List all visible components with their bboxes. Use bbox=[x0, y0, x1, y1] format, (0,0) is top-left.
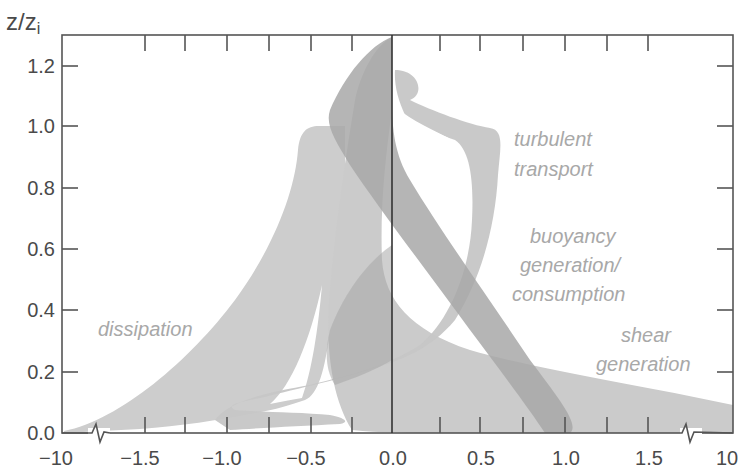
annotation-shear-generation: generation bbox=[596, 353, 691, 375]
annotation-turbulent: turbulent bbox=[514, 128, 593, 150]
y-tick-label: 1.0 bbox=[27, 115, 55, 137]
x-tick-label: −1.5 bbox=[120, 447, 159, 469]
x-tick-label: −10 bbox=[39, 447, 73, 469]
annotation-transport: transport bbox=[514, 158, 594, 180]
annotation-buoyancy: buoyancy bbox=[530, 225, 617, 247]
annotation-generation-slash: generation/ bbox=[520, 254, 623, 276]
y-tick-label: 1.2 bbox=[27, 55, 55, 77]
x-tick-label: −0.5 bbox=[286, 447, 325, 469]
x-tick-label: 0.5 bbox=[467, 447, 495, 469]
x-tick-label: 1.0 bbox=[552, 447, 580, 469]
x-tick-label: 10 bbox=[716, 447, 738, 469]
tke-budget-chart: 0.0 0.2 0.4 0.6 0.8 1.0 1.2 −10 −1.5 −1.… bbox=[0, 0, 747, 475]
y-tick-label: 0.0 bbox=[27, 422, 55, 444]
annotation-consumption: consumption bbox=[512, 283, 625, 305]
y-tick-label: 0.4 bbox=[27, 299, 55, 321]
y-axis-label: z/zi bbox=[6, 8, 40, 37]
annotation-shear: shear bbox=[621, 324, 672, 346]
y-tick-label: 0.8 bbox=[27, 177, 55, 199]
annotation-dissipation: dissipation bbox=[98, 318, 193, 340]
x-tick-label: 0.0 bbox=[379, 447, 407, 469]
y-tick-label: 0.6 bbox=[27, 238, 55, 260]
x-tick-label: −1.0 bbox=[202, 447, 241, 469]
x-tick-label: 1.5 bbox=[635, 447, 663, 469]
y-tick-label: 0.2 bbox=[27, 361, 55, 383]
